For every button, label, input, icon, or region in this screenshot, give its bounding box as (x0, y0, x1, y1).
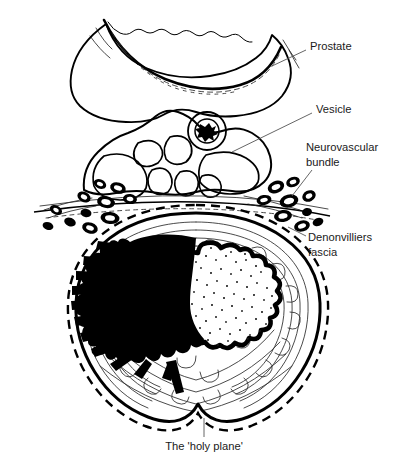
label-denonvilliers-fascia-line2: fascia (308, 246, 338, 258)
label-holy-plane: The 'holy plane' (165, 440, 243, 452)
tumour-deposit (92, 347, 101, 356)
label-denonvilliers-fascia: Denonvilliers (308, 231, 372, 243)
label-neurovascular-bundle: Neurovascular (306, 141, 378, 153)
label-vesicle: Vesicle (316, 103, 351, 115)
anatomical-figure: Prostate Vesicle Neurovascular bundle De… (0, 0, 396, 459)
label-prostate: Prostate (310, 40, 352, 52)
label-neurovascular-bundle-line2: bundle (306, 156, 340, 168)
figure-canvas: Prostate Vesicle Neurovascular bundle De… (0, 0, 396, 459)
